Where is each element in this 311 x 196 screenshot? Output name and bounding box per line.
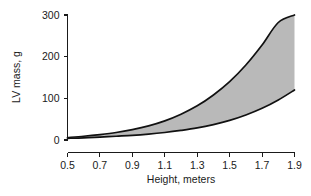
y-axis-tick-labels: 0100200300 [42,9,60,146]
y-tick-label: 100 [42,92,60,104]
y-tick-label: 0 [54,134,60,146]
y-axis-ticks [64,15,68,140]
x-tick-label: 1.5 [222,159,237,171]
y-tick-label: 300 [42,9,60,21]
x-tick-label: 1.3 [190,159,205,171]
y-tick-label: 200 [42,50,60,62]
y-axis: 0100200300 LV mass, g [10,9,68,146]
x-axis: 0.50.70.91.11.31.51.71.9 Height, meters [60,153,302,186]
x-axis-title: Height, meters [147,173,215,185]
shaded-band-area [68,15,295,138]
x-tick-label: 0.7 [93,159,108,171]
x-tick-label: 0.9 [125,159,140,171]
x-axis-tick-labels: 0.50.70.91.11.31.51.71.9 [60,159,302,171]
x-tick-label: 1.1 [157,159,172,171]
x-tick-label: 1.7 [255,159,270,171]
y-axis-title: LV mass, g [10,51,22,103]
x-axis-ticks [68,153,295,158]
x-tick-label: 1.9 [287,159,302,171]
chart-canvas: 0100200300 LV mass, g 0.50.70.91.11.31.5… [0,0,311,196]
chart-figure: 0100200300 LV mass, g 0.50.70.91.11.31.5… [0,0,311,196]
x-tick-label: 0.5 [60,159,75,171]
